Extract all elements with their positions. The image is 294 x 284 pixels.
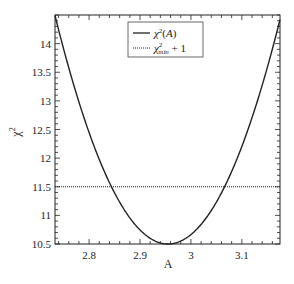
x-tick-label: 3 bbox=[188, 249, 194, 261]
legend: χ2(A) χ2min + 1 bbox=[128, 22, 203, 57]
y-tick-label: 12.5 bbox=[32, 124, 52, 136]
y-tick-label: 13.5 bbox=[32, 66, 52, 78]
y-tick-label: 11 bbox=[40, 209, 51, 221]
y-axis-label: χ2 bbox=[8, 127, 23, 137]
legend-label-chi2: χ2(A) bbox=[153, 27, 177, 40]
x-axis-label: A bbox=[164, 257, 173, 271]
y-tick-label: 13 bbox=[40, 95, 52, 107]
legend-label-chi2min: χ2min + 1 bbox=[153, 41, 186, 56]
x-tick-label: 2.9 bbox=[133, 249, 147, 261]
y-tick-label: 12 bbox=[40, 152, 51, 164]
x-tick-label: 3.1 bbox=[235, 249, 249, 261]
chart: 2.82.933.1 10.51111.51212.51313.514 A χ2… bbox=[0, 0, 294, 284]
y-tick-label: 11.5 bbox=[32, 181, 51, 193]
x-tick-label: 2.8 bbox=[82, 249, 96, 261]
y-tick-label: 10.5 bbox=[32, 238, 52, 250]
y-tick-label: 14 bbox=[40, 38, 52, 50]
